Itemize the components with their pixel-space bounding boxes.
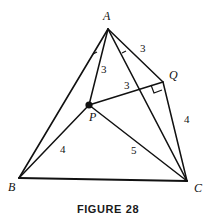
point-P-marker bbox=[85, 101, 92, 108]
length-label-AQ: 3 bbox=[140, 43, 146, 54]
vertex-label-P: P bbox=[89, 111, 96, 123]
figure-caption: FIGURE 28 bbox=[0, 203, 216, 215]
segments-group bbox=[19, 29, 187, 181]
vertex-label-C: C bbox=[194, 182, 202, 194]
vertex-label-Q: Q bbox=[169, 69, 178, 81]
segment-QC bbox=[163, 82, 187, 181]
length-label-BP: 4 bbox=[60, 144, 66, 155]
vertex-label-B: B bbox=[8, 181, 15, 193]
length-label-PC: 5 bbox=[131, 145, 137, 156]
segment-AQ bbox=[108, 29, 163, 82]
segment-AC bbox=[108, 29, 187, 181]
segment-PC bbox=[89, 105, 187, 181]
vertex-label-A: A bbox=[103, 10, 110, 22]
segment-PB bbox=[19, 105, 89, 178]
segment-BC bbox=[19, 178, 187, 181]
geometry-figure: A B C P Q 3 3 3 4 4 5 FIGURE 28 bbox=[0, 0, 216, 223]
right-angle-icon bbox=[151, 85, 162, 93]
figure-canvas bbox=[0, 0, 216, 223]
length-label-PQ: 3 bbox=[124, 80, 130, 91]
length-label-AP: 3 bbox=[101, 64, 107, 75]
angle-mark-PAQ-icon bbox=[122, 51, 126, 53]
length-label-QC: 4 bbox=[184, 114, 190, 125]
